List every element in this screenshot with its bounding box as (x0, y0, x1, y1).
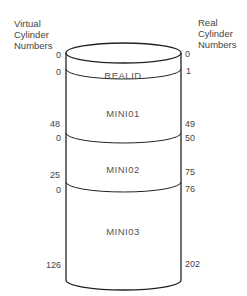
virtual-number: 0 (56, 133, 61, 144)
real-cylinder-header: Real Cylinder Numbers (198, 17, 237, 50)
real-number: 202 (185, 259, 200, 270)
virtual-number: 25 (50, 170, 60, 181)
real-number: 0 (185, 49, 190, 60)
virtual-number: 126 (46, 260, 61, 271)
segment-realid-label: REALID (104, 70, 141, 81)
segment-mini02-label: MINI02 (106, 164, 140, 175)
segment-mini01-label: MINI01 (106, 108, 140, 119)
real-number: 75 (185, 167, 195, 178)
segment-mini03-label: MINI03 (106, 226, 140, 237)
virtual-number: 48 (50, 119, 60, 130)
virtual-number: 0 (56, 67, 61, 78)
real-number: 76 (185, 184, 195, 195)
real-number: 1 (186, 66, 191, 77)
real-number: 50 (185, 133, 195, 144)
real-number: 49 (185, 119, 195, 130)
virtual-number: 0 (56, 185, 61, 196)
virtual-cylinder-header: Virtual Cylinder Numbers (14, 18, 53, 51)
virtual-number: 0 (56, 50, 61, 61)
